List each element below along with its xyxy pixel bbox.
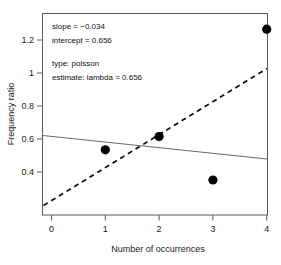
regression-line <box>43 136 267 160</box>
y-axis: 1.2 1 0.8 0.6 0.4 <box>21 35 42 177</box>
data-point <box>208 175 217 184</box>
data-point <box>155 132 164 141</box>
x-tick-label-3: 3 <box>210 224 215 234</box>
annotation-estimate: estimate: lambda = 0.656 <box>52 73 143 82</box>
data-point <box>101 145 110 154</box>
annotation-slope: slope = −0.034 <box>52 22 105 31</box>
x-tick-label-4: 4 <box>264 224 269 234</box>
y-tick-label-1.2: 1.2 <box>21 35 34 45</box>
y-tick-label-0.4: 0.4 <box>21 167 34 177</box>
x-tick-label-0: 0 <box>49 224 54 234</box>
annotation-intercept: intercept = 0.656 <box>52 36 112 45</box>
annotation-block: slope = −0.034 intercept = 0.656 type: p… <box>52 22 143 82</box>
annotation-type: type: poisson <box>52 59 99 68</box>
x-axis: 0 1 2 3 4 <box>49 215 269 234</box>
y-axis-title: Frequency ratio <box>6 83 16 146</box>
y-tick-label-0.6: 0.6 <box>21 134 34 144</box>
y-tick-label-1: 1 <box>29 68 34 78</box>
data-points-group <box>101 25 272 185</box>
x-tick-label-2: 2 <box>157 224 162 234</box>
data-point <box>262 25 271 34</box>
x-axis-title: Number of occurrences <box>111 244 205 254</box>
scatter-plot: 1.2 1 0.8 0.6 0.4 0 1 2 3 4 Number of oc… <box>0 0 281 265</box>
x-tick-label-1: 1 <box>103 224 108 234</box>
chart-figure: 1.2 1 0.8 0.6 0.4 0 1 2 3 4 Number of oc… <box>0 0 281 265</box>
y-tick-label-0.8: 0.8 <box>21 101 34 111</box>
